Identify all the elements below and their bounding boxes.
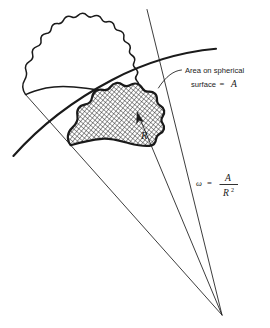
area-label-symbol: A bbox=[230, 78, 237, 89]
formula-denominator-exponent: 2 bbox=[231, 187, 234, 193]
area-label-line1: Area on spherical bbox=[185, 66, 244, 75]
formula-numerator: A bbox=[224, 172, 231, 183]
area-label-line2: surface = A bbox=[191, 78, 237, 89]
radius-label: R bbox=[140, 130, 148, 141]
area-label-equals: = bbox=[220, 79, 225, 89]
formula-denominator-base: R bbox=[222, 187, 229, 198]
formula-equals: = bbox=[207, 178, 212, 188]
irregular-cone-cross-section bbox=[23, 13, 139, 94]
solid-angle-diagram: R Area on spherical surface = A ω = A R … bbox=[0, 0, 270, 328]
area-label-leader-line bbox=[158, 70, 181, 88]
area-label-line2-prefix: surface bbox=[191, 80, 216, 89]
formula-omega: ω bbox=[196, 179, 202, 188]
solid-angle-formula: ω = A R 2 bbox=[196, 172, 238, 198]
